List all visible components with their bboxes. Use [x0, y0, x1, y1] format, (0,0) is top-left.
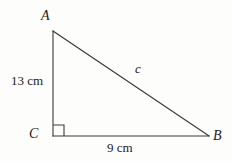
side-label-vertical-leg: 13 cm — [11, 74, 43, 87]
right-triangle-figure: A C B 13 cm 9 cm c — [0, 0, 232, 161]
segment-hypotenuse-AB — [53, 31, 209, 136]
vertex-label-a: A — [41, 9, 50, 23]
vertex-label-c: C — [29, 127, 39, 141]
right-angle-marker-icon — [53, 125, 64, 136]
side-label-hypotenuse: c — [135, 62, 141, 75]
side-label-horizontal-leg: 9 cm — [107, 141, 133, 154]
vertex-label-b: B — [213, 129, 222, 143]
